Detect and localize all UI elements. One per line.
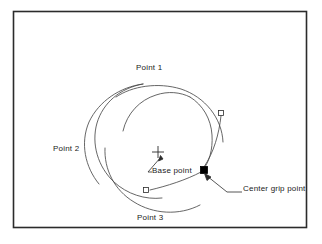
center-grip-point-icon[interactable]: [201, 167, 208, 174]
label-point-1: Point 1: [136, 63, 162, 73]
label-base-point: Base point: [152, 166, 192, 176]
figure-frame: [14, 12, 307, 228]
label-point-3: Point 3: [137, 213, 163, 223]
label-center-grip-point: Center grip point: [243, 184, 307, 194]
label-point-2: Point 2: [53, 144, 79, 154]
cad-diagram-canvas: [0, 0, 322, 244]
arc-grip-lower-icon[interactable]: [144, 188, 149, 193]
figure-root: Point 1 Point 2 Point 3 Base point Cente…: [0, 0, 322, 244]
arc-grip-right-icon[interactable]: [219, 111, 224, 116]
